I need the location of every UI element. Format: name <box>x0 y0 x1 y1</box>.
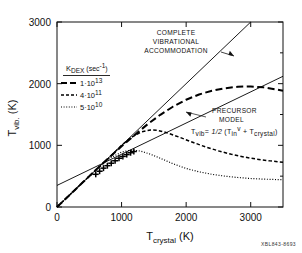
y-tick-label-3: 3000 <box>29 17 52 28</box>
legend-entry-2: 5·1010 <box>61 101 103 112</box>
y-tick-label-0: 0 <box>45 202 51 213</box>
y-tick-labels: 0100020003000 <box>29 17 52 213</box>
series-k-dex-5e10 <box>57 150 283 207</box>
legend-title: KDEX (sec-1) <box>66 62 108 74</box>
annotation-line-2: VIBRATIONAL <box>153 38 199 45</box>
annotation-line-1: COMPLETE <box>157 29 196 36</box>
legend-label-1: 4·1011 <box>80 89 102 100</box>
legend-label-0: 1·1013 <box>80 77 103 88</box>
y-tick-label-2: 2000 <box>29 79 52 90</box>
formula-text: Tvib= 1/2 (Tinv + Tcrystal) <box>191 125 278 138</box>
legend-entry-1: 4·1011 <box>61 89 102 100</box>
figure-container: 0100020003000 0100020003000 COMPLETE VIB… <box>0 0 302 253</box>
legend-entry-0: 1·1013 <box>61 77 103 88</box>
precursor-model-annotation: PRECURSOR MODEL Tvib= 1/2 (Tinv + Tcryst… <box>186 107 278 138</box>
legend: KDEX (sec-1) 1·1013 4·1011 5·1010 <box>61 62 110 112</box>
x-tick-labels: 0100020003000 <box>54 212 262 223</box>
precursor-formula: Tvib= 1/2 (Tinv + Tcrystal) <box>191 125 278 138</box>
x-axis-title: Tcrystal (K) <box>146 230 194 245</box>
precursor-arrow-head <box>186 112 192 117</box>
x-tick-label-2: 2000 <box>175 212 198 223</box>
complete-accommodation-annotation: COMPLETE VIBRATIONAL ACCOMMODATION <box>144 29 234 56</box>
annotation-line-3: ACCOMMODATION <box>144 47 208 54</box>
x-tick-label-1: 1000 <box>110 212 133 223</box>
figure-code-label: XBL843-8693 <box>261 241 296 247</box>
precursor-line-2: MODEL <box>219 116 244 123</box>
annotation-arrow-head <box>229 51 235 56</box>
y-tick-label-1: 1000 <box>29 140 52 151</box>
x-tick-label-0: 0 <box>54 212 60 223</box>
y-axis-title: Tvib. (K) <box>6 100 21 137</box>
y-axis-title-text: Tvib. (K) <box>6 100 21 137</box>
vibrational-temperature-chart: 0100020003000 0100020003000 COMPLETE VIB… <box>0 0 302 253</box>
precursor-line-1: PRECURSOR <box>212 107 257 114</box>
x-axis-title-text: Tcrystal (K) <box>146 230 194 245</box>
x-tick-label-3: 3000 <box>240 212 263 223</box>
series-k-dex-4e11 <box>57 130 283 207</box>
legend-label-2: 5·1010 <box>80 101 103 112</box>
